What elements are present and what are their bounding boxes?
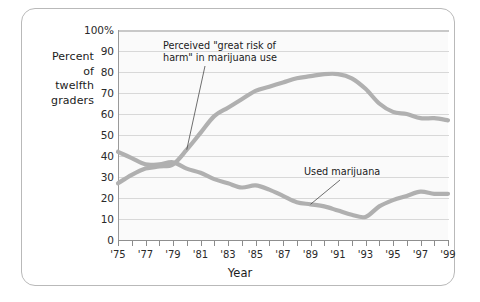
y-tick-label: 0 [70, 234, 114, 246]
y-tick-label: 100% [70, 24, 114, 36]
x-tick [448, 240, 449, 246]
x-tick-label: '89 [303, 249, 318, 260]
chart-stage: Percentoftwelfthgraders 100%908070605040… [0, 0, 480, 302]
y-tick-label: 90 [70, 45, 114, 57]
x-tick-label: '95 [385, 249, 400, 260]
gridline [119, 198, 449, 199]
gridline [119, 93, 449, 94]
gridline [119, 135, 449, 136]
y-tick-label: 80 [70, 66, 114, 78]
x-tick-label: '97 [413, 249, 428, 260]
y-tick-label: 50 [70, 129, 114, 141]
x-axis-title: Year [0, 266, 480, 280]
x-tick-label: '77 [138, 249, 153, 260]
y-tick-label: 10 [70, 213, 114, 225]
gridline [119, 72, 449, 73]
x-tick-label: '81 [193, 249, 208, 260]
gridline [119, 219, 449, 220]
y-axis-block-label: Percentoftwelfthgraders [30, 50, 94, 108]
x-tick-label: '93 [358, 249, 373, 260]
x-tick-label: '91 [330, 249, 345, 260]
gridline [119, 30, 449, 32]
chart-annotation: Perceived "great risk of harm" in mariju… [163, 40, 277, 64]
x-tick-label: '83 [220, 249, 235, 260]
x-tick-label: '87 [275, 249, 290, 260]
y-tick-label: 40 [70, 150, 114, 162]
y-tick-label: 60 [70, 108, 114, 120]
x-axis-line [118, 240, 448, 241]
gridline [119, 114, 449, 115]
chart-annotation: Used marijuana [304, 166, 380, 178]
y-tick-label: 20 [70, 192, 114, 204]
x-tick-label: '99 [440, 249, 455, 260]
x-tick-label: '79 [165, 249, 180, 260]
gridline [119, 156, 449, 157]
x-tick-label: '75 [110, 249, 125, 260]
gridline [119, 177, 449, 178]
y-tick-label: 70 [70, 87, 114, 99]
y-tick-label: 30 [70, 171, 114, 183]
x-tick-label: '85 [248, 249, 263, 260]
